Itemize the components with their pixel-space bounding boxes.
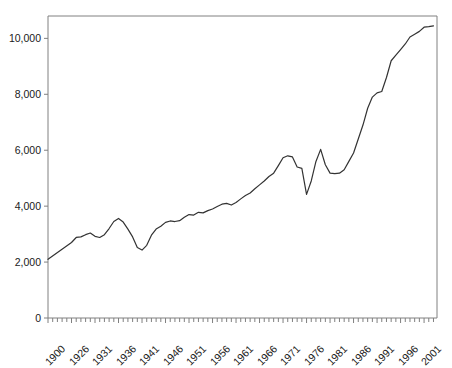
- line-chart: 02,0004,0006,0008,00010,000 190019261931…: [0, 0, 452, 368]
- y-tick-label-4: 8,000: [0, 88, 41, 100]
- data-series-line: [48, 26, 433, 259]
- y-tick-label-2: 4,000: [0, 200, 41, 212]
- y-tick-label-0: 0: [0, 312, 41, 324]
- y-tick-label-3: 6,000: [0, 144, 41, 156]
- chart-canvas: [0, 0, 452, 368]
- plot-frame: [48, 16, 437, 318]
- y-tick-label-1: 2,000: [0, 256, 41, 268]
- axis-group: [48, 16, 437, 318]
- y-tick-label-5: 10,000: [0, 32, 41, 44]
- tick-marks: [44, 38, 433, 323]
